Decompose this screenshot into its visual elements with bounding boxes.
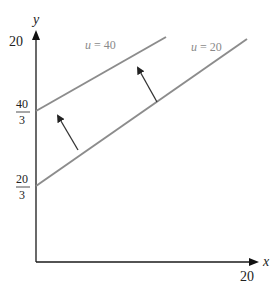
- y-axis-label: y: [31, 12, 40, 27]
- y-tick-20-3-denominator: 3: [19, 188, 25, 202]
- x-axis-arrow-icon: [249, 258, 259, 266]
- y-tick-40-3-numerator: 40: [16, 97, 28, 111]
- line-u40-label: u = 40: [85, 38, 116, 52]
- line-u20-label: u = 20: [191, 40, 222, 54]
- x-tick-20: 20: [240, 269, 254, 284]
- utility-increase-arrow-icon: [138, 68, 157, 102]
- utility-increase-arrow-icon: [58, 116, 78, 150]
- x-axis-label: x: [262, 254, 270, 269]
- line-u20: [36, 39, 247, 186]
- y-tick-20-3-numerator: 20: [16, 172, 28, 186]
- y-tick-20-3: 20 3: [16, 172, 30, 202]
- y-tick-20: 20: [9, 34, 23, 49]
- y-axis-arrow-icon: [32, 30, 40, 40]
- y-tick-40-3-denominator: 3: [19, 113, 25, 127]
- axes: [32, 30, 259, 266]
- y-tick-40-3: 40 3: [16, 97, 30, 127]
- indifference-curve-chart: y 20 x 20 40 3 20 3 u = 40 u = 20: [0, 0, 278, 295]
